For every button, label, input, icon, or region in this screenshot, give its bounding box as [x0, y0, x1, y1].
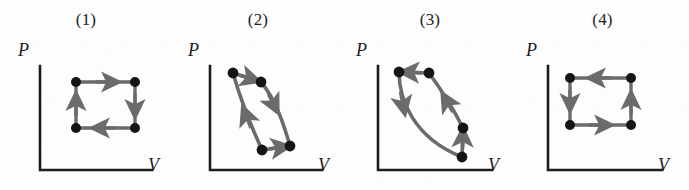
panel-1: (1) [0, 0, 172, 190]
panel-2-x-axis-label: V [318, 155, 329, 176]
panel-3-y-axis-label: P [356, 40, 367, 61]
panel-3-x-axis-label: V [488, 155, 499, 176]
panel-4-cycle [570, 78, 631, 125]
panel-1-y-axis-label: P [18, 40, 29, 61]
panel-4-state-dots [565, 73, 636, 130]
panel-1-x-axis-label: V [148, 155, 159, 176]
panel-2: (2) [172, 0, 344, 190]
panel-4-y-axis-label: P [526, 40, 537, 61]
panel-1-graphic [0, 0, 172, 190]
panel-4-x-axis-label: V [658, 155, 669, 176]
panel-4-axes [548, 66, 662, 170]
pv-diagram-figure: (1) [0, 0, 689, 190]
panel-1-state-dots [71, 77, 140, 133]
panel-1-arrowheads [76, 82, 135, 128]
panel-3: (3) [344, 0, 516, 190]
panel-4: (4) [516, 0, 689, 190]
panel-2-y-axis-label: P [188, 40, 199, 61]
panel-3-cycle [399, 72, 463, 157]
panel-1-cycle [76, 82, 135, 128]
panel-4-arrowheads [570, 78, 631, 125]
panel-2-state-dots [228, 68, 296, 156]
